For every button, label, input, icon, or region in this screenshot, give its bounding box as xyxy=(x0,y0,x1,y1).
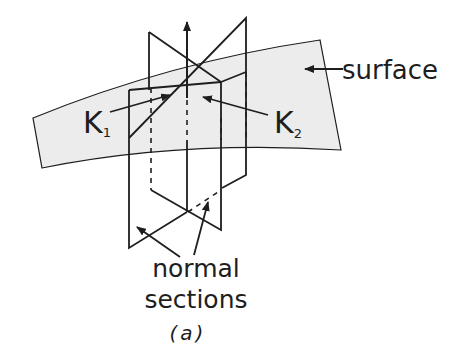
principal-curvature-diagram: surface K1 K2 normal sections (a) xyxy=(0,0,461,358)
normal-sections-label-line2: sections xyxy=(144,285,247,314)
normal-sections-arrow-1 xyxy=(137,227,180,257)
k1-label-subscript: 1 xyxy=(103,125,111,140)
figure-caption: (a) xyxy=(170,321,207,345)
normal-sections-arrow-2 xyxy=(194,202,208,255)
normal-sections-label-line1: normal xyxy=(152,254,240,283)
surface-label: surface xyxy=(342,55,438,85)
k1-label-main: K xyxy=(83,105,104,140)
k2-label-main: K xyxy=(274,105,295,140)
k2-label-subscript: 2 xyxy=(294,126,302,141)
